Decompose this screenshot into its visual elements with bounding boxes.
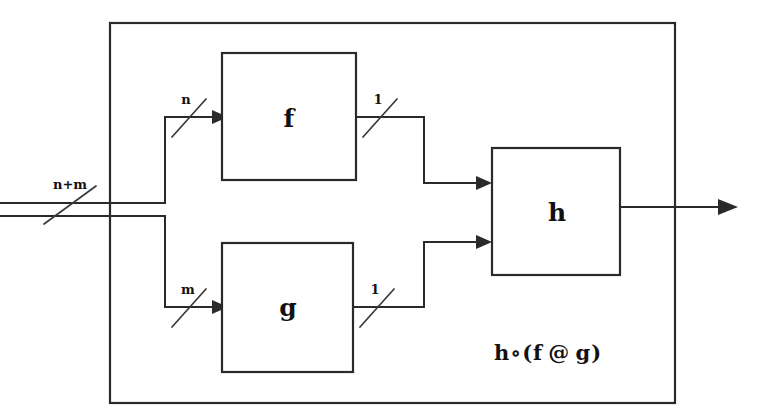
branch-to-g [165,216,228,327]
wire-f-output-path [356,117,476,183]
branch-to-f [165,99,228,203]
wire-g-to-h [353,235,492,327]
g-output-label: 1 [370,282,379,297]
diagram-svg: f g h n+m n m [0,0,775,417]
arrowhead-h-input-upper [476,176,492,190]
wire-f-to-h [356,99,492,190]
block-g-label: g [279,293,296,322]
input-bus-label: n+m [53,177,87,192]
block-h-label: h [548,198,566,227]
composite-formula-label: h∘(f @ g) [494,340,602,365]
arrowhead-output [718,199,738,215]
block-g: g [222,243,353,372]
wire-input-to-f [165,117,212,203]
output-wire [620,199,738,215]
block-f: f [222,53,356,180]
f-input-label: n [181,92,191,107]
block-h: h [492,148,620,275]
g-input-label: m [181,282,195,297]
f-output-label: 1 [373,92,382,107]
arrowhead-h-input-lower [476,235,492,249]
wire-g-output-path [353,242,476,307]
block-diagram-canvas: f g h n+m n m [0,0,775,417]
